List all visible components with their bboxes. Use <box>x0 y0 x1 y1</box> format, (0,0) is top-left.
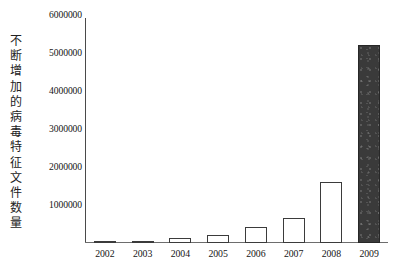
y-axis-title-char: 文 <box>10 171 22 186</box>
bar-series <box>86 18 388 243</box>
bar-2009 <box>358 45 380 243</box>
y-axis-title-char: 加 <box>10 80 22 95</box>
y-axis-title-char: 特 <box>10 140 22 155</box>
x-axis-tick-label: 2002 <box>95 248 114 259</box>
y-axis-tick-label: 1000000 <box>24 199 82 210</box>
bar-2002 <box>94 241 116 243</box>
y-axis-title-char: 的 <box>10 95 22 110</box>
y-axis-tick-label: 5000000 <box>24 47 82 58</box>
x-axis-tick-label: 2003 <box>133 248 152 259</box>
y-axis-title-char: 病 <box>10 110 22 125</box>
bar-2008 <box>320 182 342 243</box>
y-axis-title-char: 量 <box>10 216 22 231</box>
y-axis-tick-label: 2000000 <box>24 161 82 172</box>
bar-2003 <box>132 241 154 243</box>
x-axis-tick-labels: 20022003200420052006200720082009 <box>86 248 388 268</box>
y-axis-title-char: 征 <box>10 156 22 171</box>
y-axis-title-char: 毒 <box>10 125 22 140</box>
x-axis-tick-label: 2004 <box>171 248 190 259</box>
y-axis-title-char: 断 <box>10 49 22 64</box>
y-axis-tick-labels: 6000000500000040000003000000200000010000… <box>24 0 82 277</box>
x-axis-tick-label: 2009 <box>360 248 379 259</box>
y-axis-title-char: 数 <box>10 201 22 216</box>
y-axis-tick-label: 6000000 <box>24 9 82 20</box>
x-axis-tick-label: 2005 <box>209 248 228 259</box>
x-axis-tick-label: 2006 <box>246 248 265 259</box>
y-axis-title-char: 增 <box>10 64 22 79</box>
y-axis-title: 不断增加的病毒特征文件数量 <box>6 34 26 244</box>
bar-2007 <box>283 218 305 243</box>
x-axis-tick-label: 2008 <box>322 248 341 259</box>
bar-2004 <box>169 238 191 243</box>
bar-chart: 不断增加的病毒特征文件数量 60000005000000400000030000… <box>0 0 403 277</box>
y-axis-title-char: 件 <box>10 186 22 201</box>
bar-2005 <box>207 235 229 243</box>
y-axis-tick-label: 3000000 <box>24 123 82 134</box>
y-axis-tick-label: 4000000 <box>24 85 82 96</box>
x-axis-tick-label: 2007 <box>284 248 303 259</box>
bar-2006 <box>245 227 267 243</box>
y-axis-title-char: 不 <box>10 34 22 49</box>
